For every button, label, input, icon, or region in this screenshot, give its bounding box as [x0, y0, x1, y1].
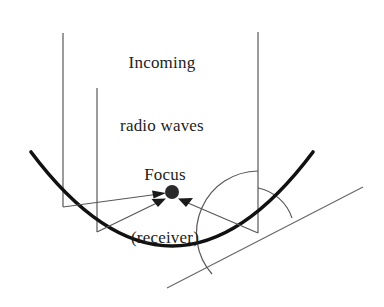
focus-label: Focus (receiver): [106, 122, 224, 269]
focus-label-line1: Focus: [106, 164, 224, 185]
incoming-waves-label-line1: Incoming: [96, 52, 228, 73]
focus-label-line2: (receiver): [106, 227, 224, 248]
